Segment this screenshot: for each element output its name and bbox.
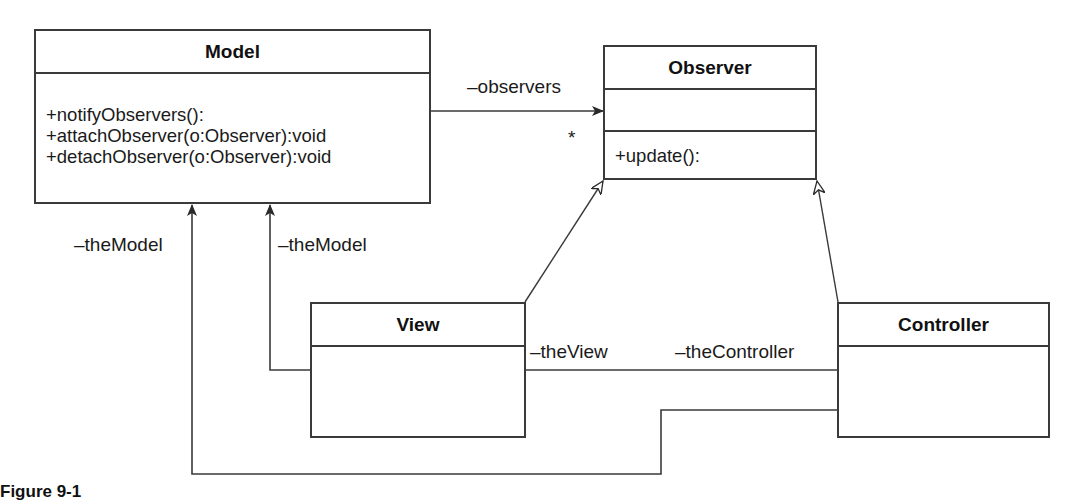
class-controller[interactable]: Controller (837, 302, 1050, 438)
observers-role-label: –observers (467, 76, 561, 98)
operation-attach-observer: +attachObserver(o:Observer):void (46, 125, 429, 146)
class-observer-name: Observer (605, 47, 815, 90)
figure-caption: Figure 9-1 (0, 482, 81, 502)
controller-role-label: –theController (675, 341, 794, 363)
class-observer-operations: +update(): (605, 132, 815, 166)
class-observer[interactable]: Observer +update(): (603, 45, 817, 180)
class-model[interactable]: Model +notifyObservers(): +attachObserve… (34, 29, 431, 204)
view-role-label: –theView (530, 341, 608, 363)
controller-observer-realization-line (817, 181, 838, 302)
class-observer-attributes (605, 90, 815, 132)
class-model-operations: +notifyObservers(): +attachObserver(o:Ob… (36, 74, 429, 167)
observers-multiplicity-label: * (568, 127, 575, 149)
view-observer-realization-line (525, 181, 603, 302)
operation-notify-observers: +notifyObservers(): (46, 104, 429, 125)
class-model-name: Model (36, 31, 429, 74)
class-view[interactable]: View (310, 302, 526, 438)
class-view-name: View (312, 304, 524, 347)
view-model-role-label: –theModel (278, 234, 367, 256)
class-controller-name: Controller (839, 304, 1048, 347)
controller-model-role-label: –theModel (74, 234, 163, 256)
operation-update: +update(): (615, 145, 815, 166)
operation-detach-observer: +detachObserver(o:Observer):void (46, 146, 429, 167)
view-model-association-line (270, 205, 311, 370)
